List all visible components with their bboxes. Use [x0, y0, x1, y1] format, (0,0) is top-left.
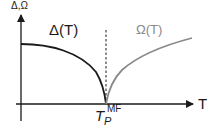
y-axis-label: Δ,Ω	[11, 0, 28, 11]
omega-curve	[106, 38, 192, 104]
omega-curve-label: Ω(T)	[136, 22, 162, 37]
critical-temperature-subscript: P	[104, 115, 111, 127]
delta-curve-label: Δ(T)	[49, 21, 78, 38]
critical-temperature-symbol: T	[95, 107, 104, 124]
critical-temperature-label: T P MF	[95, 104, 125, 128]
x-axis-label: T	[198, 95, 207, 112]
critical-temperature-superscript: MF	[107, 103, 121, 114]
delta-curve	[21, 44, 106, 104]
